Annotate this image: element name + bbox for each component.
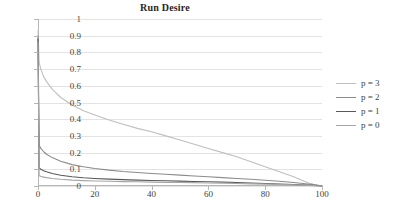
x-tick-label: 100 <box>302 190 342 199</box>
x-tick-label: 80 <box>245 190 285 199</box>
legend-item-label: p = 1 <box>361 107 380 116</box>
legend-item[interactable]: p = 1 <box>336 104 408 118</box>
x-tick-mark <box>95 186 96 190</box>
legend-item[interactable]: p = 0 <box>336 118 408 132</box>
y-tick-mark <box>34 136 38 137</box>
x-tick-mark <box>152 186 153 190</box>
y-tick-label: 0.3 <box>41 132 81 141</box>
y-tick-label: 1 <box>41 15 81 24</box>
chart-container: Run Desire 00.10.20.30.40.50.60.70.80.91… <box>0 0 409 221</box>
x-tick-mark <box>265 186 266 190</box>
x-tick-label: 60 <box>188 190 228 199</box>
legend-item-label: p = 2 <box>361 93 380 102</box>
y-tick-label: 0.5 <box>41 99 81 108</box>
legend-item[interactable]: p = 3 <box>336 76 408 90</box>
y-tick-mark <box>34 69 38 70</box>
legend-item[interactable]: p = 2 <box>336 90 408 104</box>
y-tick-label: 0.2 <box>41 149 81 158</box>
legend-swatch-icon <box>336 97 356 98</box>
x-tick-label: 0 <box>18 190 58 199</box>
y-tick-mark <box>34 119 38 120</box>
y-tick-label: 0.8 <box>41 48 81 57</box>
legend-swatch-icon <box>336 83 356 84</box>
y-tick-mark <box>34 19 38 20</box>
y-tick-mark <box>34 86 38 87</box>
y-tick-mark <box>34 52 38 53</box>
legend-swatch-icon <box>336 125 356 126</box>
chart-title: Run Desire <box>0 2 330 13</box>
y-tick-mark <box>34 36 38 37</box>
y-tick-label: 0.1 <box>41 165 81 174</box>
legend-item-label: p = 0 <box>361 121 380 130</box>
chart-legend: p = 3 p = 2 p = 1 p = 0 <box>336 76 408 132</box>
x-tick-mark <box>38 186 39 190</box>
x-tick-mark <box>322 186 323 190</box>
legend-item-label: p = 3 <box>361 79 380 88</box>
y-tick-label: 0.9 <box>41 32 81 41</box>
legend-swatch-icon <box>336 111 356 112</box>
y-tick-label: 0.6 <box>41 82 81 91</box>
x-tick-label: 40 <box>132 190 172 199</box>
y-tick-mark <box>34 153 38 154</box>
x-tick-label: 20 <box>75 190 115 199</box>
x-tick-mark <box>208 186 209 190</box>
y-tick-mark <box>34 103 38 104</box>
y-tick-label: 0.7 <box>41 65 81 74</box>
y-tick-mark <box>34 169 38 170</box>
y-tick-label: 0.4 <box>41 115 81 124</box>
